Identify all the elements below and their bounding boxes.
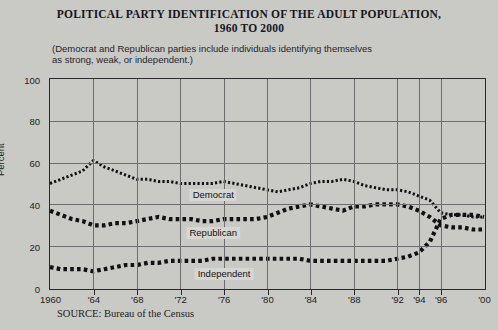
y-tick-label: 60	[29, 158, 40, 169]
chart-subtitle: (Democrat and Republican parties include…	[52, 43, 382, 65]
y-tick-label: 80	[29, 116, 40, 127]
x-tick-label: '88	[348, 294, 360, 305]
x-tick-label: '84	[305, 294, 317, 305]
gridline-vertical	[224, 79, 225, 289]
y-tick-label: 40	[29, 199, 40, 210]
series-label-democrat: Democrat	[190, 189, 237, 201]
gridline-vertical	[419, 79, 420, 289]
plot-area	[49, 78, 486, 290]
page-title: POLITICAL PARTY IDENTIFICATION OF THE AD…	[0, 8, 498, 34]
x-tick-label: '80	[261, 294, 273, 305]
x-tick-label: '72	[174, 294, 186, 305]
gridline-vertical	[310, 79, 311, 289]
y-tick-label: 0	[35, 283, 40, 294]
x-tick-label: '92	[391, 294, 403, 305]
gridline-vertical	[137, 79, 138, 289]
gridline-vertical	[180, 79, 181, 289]
title-line-2: 1960 TO 2000	[0, 22, 498, 34]
gridline-vertical	[354, 79, 355, 289]
y-tick-label: 100	[24, 74, 40, 85]
x-tick-label: '94	[413, 294, 425, 305]
x-tick-label: '64	[88, 294, 100, 305]
x-tick-label: 1960	[40, 294, 61, 305]
x-tick-label: '00	[478, 294, 490, 305]
series-label-republican: Republican	[186, 227, 240, 239]
y-tick-label: 20	[29, 241, 40, 252]
gridline-vertical	[267, 79, 268, 289]
x-tick-label: '76	[218, 294, 230, 305]
series-label-independent: Independent	[195, 268, 254, 280]
gridline-vertical	[93, 79, 94, 289]
chart-page: POLITICAL PARTY IDENTIFICATION OF THE AD…	[0, 0, 498, 330]
source-note: SOURCE: Bureau of the Census	[57, 308, 194, 319]
gridline-vertical	[441, 79, 442, 289]
x-tick-label: '96	[435, 294, 447, 305]
title-line-1: POLITICAL PARTY IDENTIFICATION OF THE AD…	[57, 8, 441, 20]
x-axis-tick-labels: 1960'64'68'72'76'80'84'88'92'94'96'00	[49, 294, 486, 308]
x-tick-label: '68	[131, 294, 143, 305]
gridline-vertical	[397, 79, 398, 289]
y-axis-tick-labels: 020406080100	[0, 78, 45, 290]
